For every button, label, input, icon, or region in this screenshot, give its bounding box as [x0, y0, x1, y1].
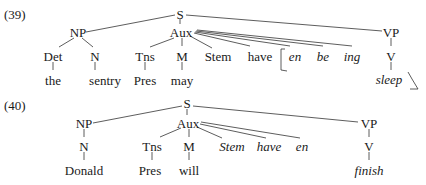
node-np: NP [70, 25, 87, 40]
node-vp: VP [383, 25, 400, 40]
node-det: Det [44, 49, 63, 64]
leaf-donald: Donald [65, 163, 104, 178]
node-n: N [79, 139, 89, 154]
node-stem: Stem [205, 49, 232, 64]
example-number: (40) [4, 98, 26, 113]
leaf-finish: finish [355, 163, 384, 178]
syntax-trees: (39) S NP Aux VP Det N Tns M Stem have [0, 0, 426, 185]
tree-40: (40) S NP Aux VP N Tns M Stem have en V … [4, 96, 383, 178]
node-en: en [296, 139, 308, 154]
node-vp: VP [361, 116, 378, 131]
node-tns: Tns [142, 139, 162, 154]
leaf-pres: Pres [134, 73, 156, 88]
node-aux: Aux [170, 25, 193, 40]
edge-s-vp [193, 106, 358, 122]
leaf-sleep: sleep [376, 72, 403, 87]
leaf-the: the [45, 73, 61, 88]
node-stem: Stem [219, 139, 244, 154]
node-have: have [257, 139, 282, 154]
bracket-right [408, 72, 418, 89]
edge-s-vp [186, 15, 382, 31]
leaf-may: may [171, 73, 194, 88]
node-s: S [176, 7, 183, 22]
node-ing: ing [344, 49, 361, 64]
bracket-left [281, 49, 287, 71]
node-m: M [183, 139, 195, 154]
node-v: V [386, 49, 396, 64]
leaf-sentry: sentry [89, 73, 121, 88]
edge-s-np [86, 15, 175, 32]
node-v: V [364, 139, 374, 154]
tree-39: (39) S NP Aux VP Det N Tns M Stem have [4, 7, 418, 89]
node-s: S [183, 96, 190, 111]
node-n: N [90, 49, 100, 64]
edge-aux-stem [190, 36, 212, 48]
node-en: en [289, 49, 301, 64]
example-number: (39) [4, 7, 26, 22]
edge-aux-stem [197, 127, 222, 138]
node-m: M [176, 49, 188, 64]
node-np: NP [76, 116, 93, 131]
node-be: be [317, 49, 330, 64]
node-have: have [248, 49, 273, 64]
node-aux: Aux [177, 116, 200, 131]
edge-aux-be [196, 31, 323, 46]
leaf-pres: Pres [139, 163, 161, 178]
leaf-will: will [179, 163, 200, 178]
edge-s-np [93, 106, 182, 123]
node-tns: Tns [135, 49, 155, 64]
